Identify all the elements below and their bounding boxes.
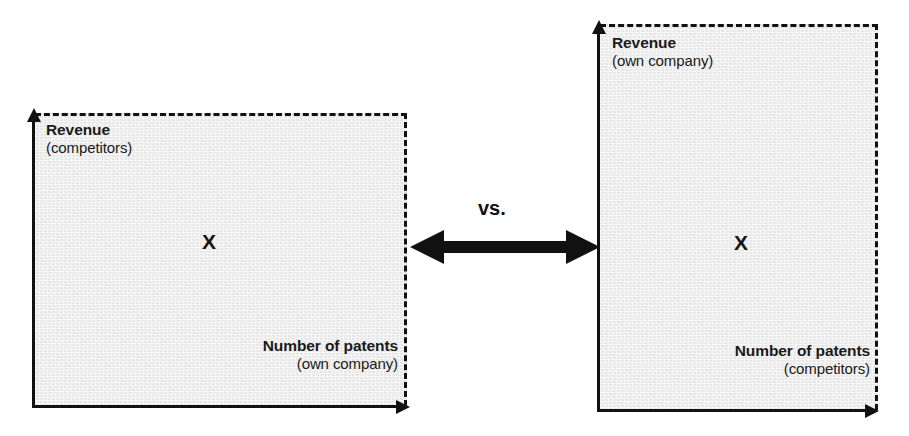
panel-right-data-point-marker: X — [734, 232, 748, 253]
panel-right-dashed-top-border — [600, 24, 878, 27]
panel-right-x-axis-title: Number of patents — [735, 342, 870, 360]
panel-right-x-axis-subtitle: (competitors) — [735, 360, 870, 378]
panel-left-y-axis-label: Revenue (competitors) — [46, 121, 132, 157]
panel-right-x-axis-line — [597, 409, 869, 412]
panel-left-x-axis-subtitle: (own company) — [263, 355, 398, 373]
diagram-canvas: Revenue (competitors) Number of patents … — [0, 0, 909, 436]
panel-left-x-axis-label: Number of patents (own company) — [263, 337, 398, 373]
panel-left-dashed-right-border — [404, 113, 407, 406]
panel-left-y-axis-arrowhead — [27, 108, 41, 122]
comparison-double-arrow-icon — [410, 230, 600, 264]
panel-left-x-axis-line — [32, 405, 400, 408]
panel-right-y-axis-title: Revenue — [612, 34, 713, 52]
panel-right-dashed-right-border — [875, 24, 878, 410]
comparator-label: vs. — [478, 198, 506, 218]
panel-right-y-axis-label: Revenue (own company) — [612, 34, 713, 70]
panel-right-y-axis-subtitle: (own company) — [612, 52, 713, 70]
panel-left-y-axis-line — [32, 120, 35, 408]
panel-left-x-axis-title: Number of patents — [263, 337, 398, 355]
panel-left-y-axis-title: Revenue — [46, 121, 132, 139]
panel-right-y-axis-arrowhead — [592, 20, 606, 34]
panel-left-data-point-marker: X — [202, 231, 216, 252]
panel-left-dashed-top-border — [35, 113, 407, 116]
panel-left-x-axis-arrowhead — [396, 400, 410, 414]
panel-right-x-axis-label: Number of patents (competitors) — [735, 342, 870, 378]
panel-right-y-axis-line — [597, 32, 600, 412]
panel-left-y-axis-subtitle: (competitors) — [46, 139, 132, 157]
panel-left: Revenue (competitors) Number of patents … — [35, 113, 407, 406]
panel-right-x-axis-arrowhead — [865, 404, 879, 418]
panel-right: Revenue (own company) Number of patents … — [600, 24, 878, 410]
